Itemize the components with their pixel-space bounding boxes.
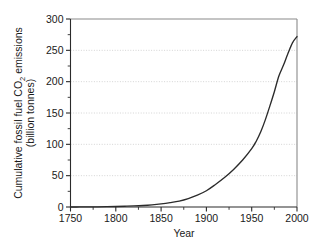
y-axis-title-line1-main: Cumulative fossil fuel CO: [12, 81, 24, 199]
x-axis-title: Year: [173, 227, 195, 239]
y-tick-label-100: 100: [46, 138, 64, 150]
y-axis-title-line2: (billion tonnes): [24, 79, 36, 147]
y-tick-label-200: 200: [46, 75, 64, 87]
y-tick-label-150: 150: [46, 107, 64, 119]
x-tick-label-1750: 1750: [59, 212, 83, 224]
y-axis-title-line1-tail: emissions: [12, 27, 24, 77]
y-tick-label-300: 300: [46, 13, 64, 25]
x-tick-label-2000: 2000: [285, 212, 309, 224]
cumulative-co2-emissions-chart: 050100150200250300 175018001850190019502…: [0, 0, 328, 250]
x-tick-label-1800: 1800: [104, 212, 128, 224]
x-tick-label-1950: 1950: [240, 212, 264, 224]
y-tick-label-0: 0: [58, 201, 64, 213]
x-tick-label-1900: 1900: [195, 212, 219, 224]
x-axis-title-group: Year: [173, 227, 195, 239]
x-tick-label-1850: 1850: [149, 212, 173, 224]
y-tick-label-250: 250: [46, 44, 64, 56]
y-tick-label-50: 50: [52, 169, 64, 181]
chart-figure: 050100150200250300 175018001850190019502…: [0, 0, 328, 250]
